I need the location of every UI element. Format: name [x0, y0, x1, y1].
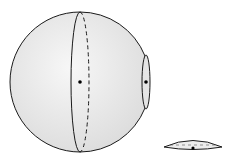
- spherical-cap: [164, 141, 222, 150]
- sphere-diagram: [0, 0, 231, 160]
- cap-center-point: [191, 146, 194, 149]
- sphere-outline: [10, 12, 145, 152]
- sphere-center-point: [78, 80, 82, 84]
- cut-center-point: [144, 80, 148, 84]
